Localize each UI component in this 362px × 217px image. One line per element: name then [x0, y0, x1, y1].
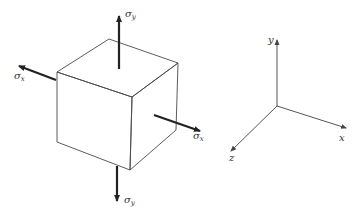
sigma-x-left-label: σx — [14, 71, 25, 83]
cube-top-face — [57, 39, 178, 97]
x-axis-label: x — [339, 133, 345, 143]
coordinate-axes — [231, 40, 346, 151]
sigma-y-bottom-label: σy — [124, 195, 135, 207]
cube-right-face — [130, 63, 178, 170]
x-axis — [277, 106, 346, 128]
stress-cube — [57, 39, 178, 170]
diagram-canvas — [0, 0, 362, 217]
sigma-y-top-label: σy — [125, 9, 136, 21]
z-axis-label: z — [229, 153, 234, 163]
y-axis-label: y — [268, 35, 274, 45]
z-axis — [231, 106, 277, 151]
sigma-x-right-label: σx — [193, 131, 204, 143]
cube-front-face — [57, 72, 132, 170]
sigma-x-right-arrow — [154, 115, 200, 131]
